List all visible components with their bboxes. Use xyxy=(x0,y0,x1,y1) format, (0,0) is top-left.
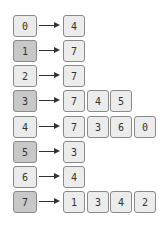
arrow-right-icon xyxy=(39,25,59,27)
value-cell: 0 xyxy=(134,116,156,138)
list-row-6: 64 xyxy=(0,166,166,188)
value-cell: 4 xyxy=(110,191,132,213)
index-cell: 6 xyxy=(13,166,37,188)
value-cell: 3 xyxy=(87,116,109,138)
value-cell: 4 xyxy=(63,15,85,37)
index-cell: 3 xyxy=(13,90,37,112)
index-cell: 0 xyxy=(13,15,37,37)
list-row-2: 27 xyxy=(0,65,166,87)
index-cell: 7 xyxy=(13,191,37,213)
value-cell: 5 xyxy=(110,90,132,112)
index-cell: 4 xyxy=(13,116,37,138)
value-cell: 7 xyxy=(63,40,85,62)
value-cell: 1 xyxy=(63,191,85,213)
value-cell: 3 xyxy=(63,141,85,163)
arrow-right-icon xyxy=(39,75,59,77)
list-row-7: 71342 xyxy=(0,191,166,213)
arrow-right-icon xyxy=(39,50,59,52)
value-cell: 6 xyxy=(110,116,132,138)
index-cell: 5 xyxy=(13,141,37,163)
list-row-4: 47360 xyxy=(0,116,166,138)
arrow-right-icon xyxy=(39,176,59,178)
value-cell: 2 xyxy=(134,191,156,213)
list-row-0: 04 xyxy=(0,15,166,37)
index-cell: 2 xyxy=(13,65,37,87)
arrow-right-icon xyxy=(39,201,59,203)
arrow-right-icon xyxy=(39,151,59,153)
index-cell: 1 xyxy=(13,40,37,62)
value-cell: 3 xyxy=(87,191,109,213)
value-cell: 7 xyxy=(63,90,85,112)
value-cell: 7 xyxy=(63,116,85,138)
list-row-1: 17 xyxy=(0,40,166,62)
list-row-3: 3745 xyxy=(0,90,166,112)
arrow-right-icon xyxy=(39,126,59,128)
value-cell: 4 xyxy=(87,90,109,112)
list-row-5: 53 xyxy=(0,141,166,163)
value-cell: 4 xyxy=(63,166,85,188)
arrow-right-icon xyxy=(39,100,59,102)
value-cell: 7 xyxy=(63,65,85,87)
